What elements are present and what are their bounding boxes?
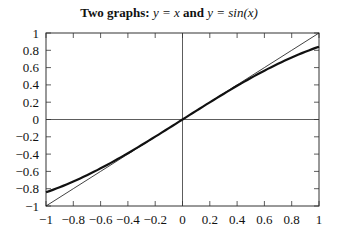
x-tick-label: 0 [179, 212, 186, 227]
x-axis-tick-labels: −1−0.8−0.6−0.4−0.200.20.40.60.81 [39, 212, 322, 227]
x-tick-label: −0.2 [143, 212, 167, 227]
y-tick-label: 1 [33, 26, 40, 41]
x-tick-label: 0.4 [229, 212, 246, 227]
x-tick-label: 1 [316, 212, 323, 227]
y-tick-label: −0.4 [15, 147, 39, 162]
x-tick-label: 0.8 [284, 212, 300, 227]
y-tick-label: −0.6 [15, 164, 39, 179]
x-tick-label: −0.8 [62, 212, 86, 227]
y-axis-tick-labels: −1−0.8−0.6−0.4−0.200.20.40.60.81 [15, 26, 39, 214]
x-tick-label: −0.6 [89, 212, 113, 227]
y-tick-label: 0.2 [23, 95, 39, 110]
y-tick-label: −0.2 [15, 129, 39, 144]
y-tick-label: 0 [33, 112, 40, 127]
y-tick-label: −0.8 [15, 181, 39, 196]
x-tick-label: 0.2 [202, 212, 218, 227]
chart-canvas: −1−0.8−0.6−0.4−0.200.20.40.60.81 −1−0.8−… [0, 0, 338, 241]
y-tick-label: −1 [25, 199, 39, 214]
y-tick-label: 0.4 [23, 77, 40, 92]
y-tick-label: 0.8 [23, 43, 39, 58]
x-tick-label: −0.4 [116, 212, 140, 227]
y-tick-label: 0.6 [23, 60, 40, 75]
x-tick-label: 0.6 [256, 212, 273, 227]
x-tick-label: −1 [39, 212, 53, 227]
